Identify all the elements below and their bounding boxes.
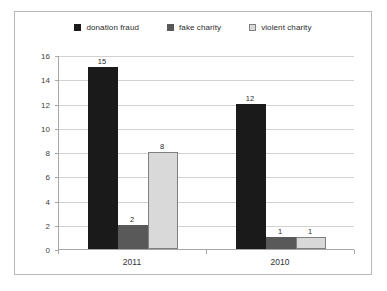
y-axis-tick-label: 12 [32, 100, 50, 109]
x-axis-tick-mark [58, 250, 59, 254]
bar-value-label: 8 [160, 142, 164, 151]
plot-wrapper: 02468101214161528201112112010 [15, 12, 371, 274]
y-axis-tick-mark [55, 56, 58, 57]
y-axis-tick-label: 6 [32, 173, 50, 182]
y-axis-tick-mark [55, 202, 58, 203]
y-axis-tick-mark [55, 226, 58, 227]
bar-value-label: 1 [278, 227, 282, 236]
plot-area [58, 56, 354, 250]
bar-value-label: 1 [308, 227, 312, 236]
y-axis-tick-mark [55, 105, 58, 106]
y-axis-tick-label: 14 [32, 76, 50, 85]
y-axis-tick-mark [55, 129, 58, 130]
bar [236, 104, 266, 250]
y-axis-tick-label: 16 [32, 52, 50, 61]
x-axis-tick-mark [354, 250, 355, 254]
bar [296, 237, 326, 249]
bar [118, 225, 148, 249]
bar-value-label: 2 [130, 215, 134, 224]
bar [148, 152, 178, 249]
chart-frame: donation fraud fake charity violent char… [14, 11, 372, 275]
y-axis-tick-label: 8 [32, 149, 50, 158]
x-axis-category-label: 2010 [271, 257, 290, 267]
bar-value-label: 12 [246, 94, 254, 103]
bar [266, 237, 296, 249]
y-axis-tick-label: 10 [32, 124, 50, 133]
x-axis-tick-mark [206, 250, 207, 254]
x-axis-category-label: 2011 [123, 257, 141, 267]
y-axis-tick-label: 4 [32, 197, 50, 206]
bar-value-label: 15 [98, 57, 106, 66]
y-axis-tick-mark [55, 153, 58, 154]
chart-container: donation fraud fake charity violent char… [0, 0, 387, 291]
y-axis-tick-label: 0 [32, 246, 50, 255]
y-axis-tick-label: 2 [32, 221, 50, 230]
bar [88, 67, 118, 249]
y-axis-tick-mark [55, 177, 58, 178]
y-axis-tick-mark [55, 80, 58, 81]
